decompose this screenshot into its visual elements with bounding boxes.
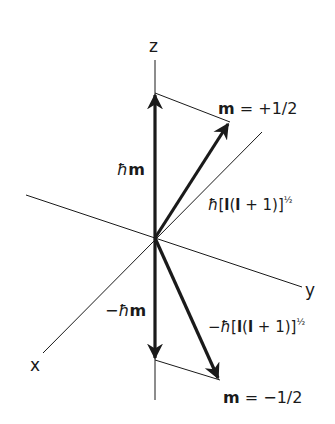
m-plus-value: = +1/2 xyxy=(235,99,298,118)
magnitude-up-label: ħ[l(l + 1)]½ xyxy=(208,196,293,213)
hbar-symbol: ħ xyxy=(117,160,128,179)
m-symbol: m xyxy=(218,99,235,118)
z-axis-label: z xyxy=(149,38,158,55)
m-minus-half-label: m = −1/2 xyxy=(223,390,302,406)
exponent-half: ½ xyxy=(296,317,305,327)
spin-vector-diagram: z y x m = +1/2 m = −1/2 ħm −ħm ħ[l(l + 1… xyxy=(0,0,335,424)
arrow-spin-up-vector xyxy=(155,124,228,238)
hbar-m-down-label: −ħm xyxy=(105,303,146,319)
y-axis-label: y xyxy=(305,282,315,299)
hbar-symbol: ħ xyxy=(118,301,129,320)
m-minus-value: = −1/2 xyxy=(240,388,303,407)
m-plus-half-label: m = +1/2 xyxy=(218,101,297,117)
minus-sign: − xyxy=(208,318,221,336)
expr-rest: + 1)] xyxy=(240,196,283,214)
hbar-symbol: ħ xyxy=(208,196,218,214)
hbar-symbol: ħ xyxy=(221,318,231,336)
x-axis-label: x xyxy=(30,357,40,374)
minus-sign: − xyxy=(105,301,118,320)
exponent-half: ½ xyxy=(284,195,293,205)
expr-rest: + 1)] xyxy=(253,318,296,336)
hbar-m-up-label: ħm xyxy=(117,162,145,178)
magnitude-down-label: −ħ[l(l + 1)]½ xyxy=(208,318,305,335)
m-symbol: m xyxy=(130,301,147,320)
arrow-spin-down-vector xyxy=(155,238,218,378)
m-symbol: m xyxy=(223,388,240,407)
m-symbol: m xyxy=(128,160,145,179)
